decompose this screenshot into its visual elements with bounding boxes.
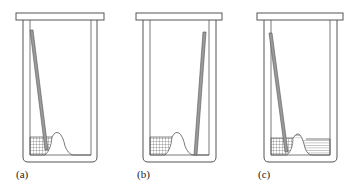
gel-grid-region [30,137,52,155]
gel-bump [52,133,91,156]
cuvette-lid [16,13,104,20]
panel-c [257,13,343,162]
panel-label-b: (b) [137,168,150,180]
cuvette-lid [136,13,222,20]
cuvette-diagram [0,0,357,188]
rod [269,33,288,152]
cuvette-inner-wall [271,20,330,155]
gel-grid-region [271,138,293,155]
gel-striped-region [293,134,330,155]
panel-label-a: (a) [16,168,28,180]
rod [30,30,48,150]
panel-b [136,13,222,162]
gel-bump [172,133,209,156]
panel-a [16,13,104,162]
gel-grid-region [150,137,172,155]
cuvette-lid [257,13,343,20]
panel-label-c: (c) [258,168,270,180]
rod [194,32,206,155]
